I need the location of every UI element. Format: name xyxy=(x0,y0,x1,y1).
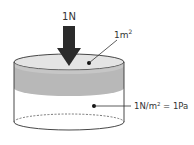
bottom-front-edge xyxy=(14,122,124,130)
force-label: 1N xyxy=(62,11,76,22)
pressure-diagram: 1N 1m2 1N/m2 = 1Pa xyxy=(0,0,194,145)
pressure-pointer xyxy=(92,104,131,108)
pressure-label: 1N/m2 = 1Pa xyxy=(134,101,188,111)
area-label: 1m2 xyxy=(114,28,133,40)
bottom-back-edge xyxy=(14,114,124,122)
